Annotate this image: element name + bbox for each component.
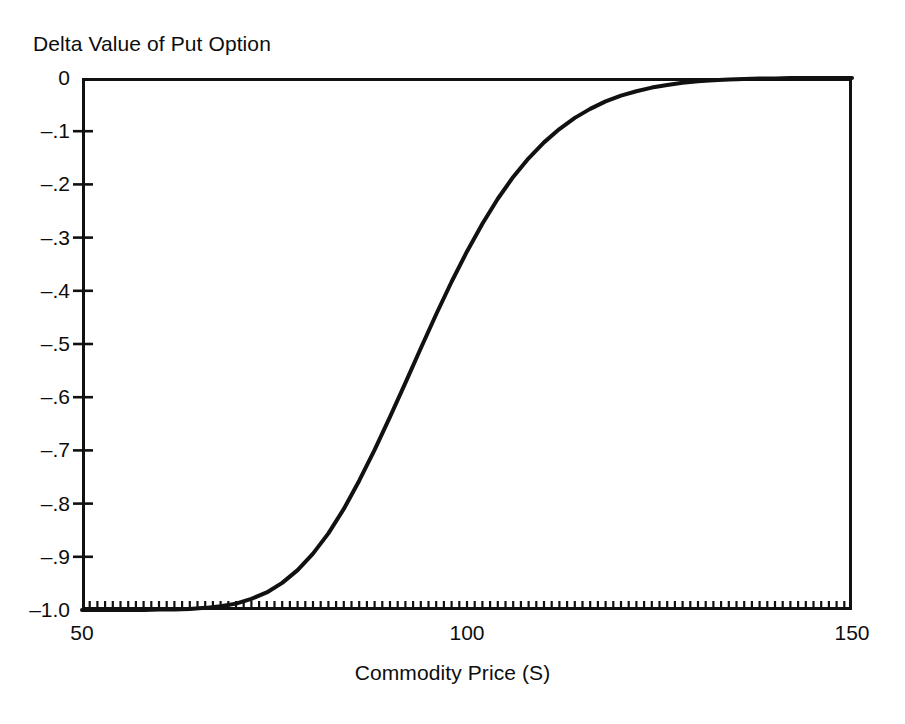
x-axis-title: Commodity Price (S) xyxy=(0,660,905,686)
delta-put-option-chart: Delta Value of Put Option 0–.1–.2–.3–.4–… xyxy=(0,0,905,724)
x-tick-label: 150 xyxy=(834,622,869,643)
x-axis-tick-labels: 50100150 xyxy=(0,0,905,724)
x-tick-label: 100 xyxy=(449,622,484,643)
x-tick-label: 50 xyxy=(70,622,93,643)
